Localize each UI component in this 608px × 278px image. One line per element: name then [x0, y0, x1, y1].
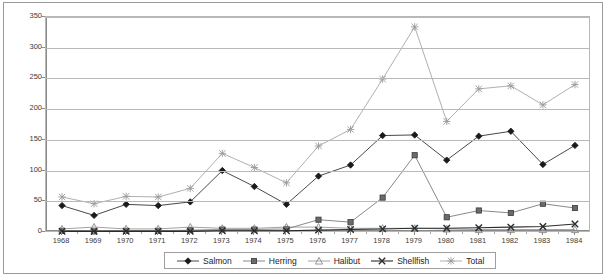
y-tick-mark: [41, 77, 45, 78]
data-point-square: [380, 195, 385, 200]
legend-label: Total: [466, 256, 484, 266]
x-tick-minor: [301, 232, 302, 234]
data-point-asterisk: [507, 82, 514, 89]
x-tick-mark: [253, 232, 254, 235]
x-tick-minor: [237, 232, 238, 234]
data-point-square: [444, 215, 449, 220]
y-tick-mark: [41, 47, 45, 48]
x-tick-minor: [430, 232, 431, 234]
gridline: [46, 78, 589, 79]
y-tick-mark: [41, 16, 45, 17]
chart-screenshot: 050100150200250300350 196819691970197119…: [0, 0, 608, 278]
x-tick-minor: [269, 232, 270, 234]
x-tick-minor: [398, 232, 399, 234]
data-point-asterisk: [219, 150, 226, 157]
data-point-diamond: [185, 257, 191, 263]
y-tick-mark: [41, 108, 45, 109]
y-tick-mark: [41, 231, 45, 232]
plot-area: [45, 16, 590, 232]
chart-container: 050100150200250300350 196819691970197119…: [9, 7, 599, 269]
x-tick-minor: [526, 232, 527, 234]
x-tick-minor: [141, 232, 142, 234]
x-tick-minor: [205, 232, 206, 234]
x-tick-mark: [574, 232, 575, 235]
legend-label: Salmon: [203, 256, 232, 266]
data-point-square: [476, 208, 481, 213]
x-tick-label: 1984: [554, 237, 594, 245]
x-icon: [370, 256, 394, 266]
data-point-square: [251, 258, 256, 263]
gridline: [46, 17, 589, 18]
x-tick-mark: [414, 232, 415, 235]
chart-legend: SalmonHerringHalibutShellfishTotal: [164, 252, 496, 269]
x-tick-mark: [510, 232, 511, 235]
legend-item-salmon[interactable]: Salmon: [176, 256, 232, 266]
data-point-asterisk: [315, 142, 322, 149]
data-point-diamond: [91, 212, 97, 218]
x-tick-minor: [77, 232, 78, 234]
x-tick-minor: [173, 232, 174, 234]
x-tick-mark: [446, 232, 447, 235]
y-tick-label: 0: [2, 227, 42, 235]
data-point-diamond: [59, 202, 65, 208]
series-herring: [59, 153, 577, 234]
data-point-diamond: [251, 183, 257, 189]
y-tick-label: 300: [2, 43, 42, 51]
data-point-asterisk: [155, 193, 162, 200]
x-tick-mark: [221, 232, 222, 235]
x-tick-minor: [558, 232, 559, 234]
diamond-icon: [176, 256, 200, 266]
legend-item-shellfish[interactable]: Shellfish: [370, 256, 429, 266]
data-point-asterisk: [539, 101, 546, 108]
data-point-square: [508, 210, 513, 215]
asterisk-icon: [439, 256, 463, 266]
y-tick-label: 150: [2, 135, 42, 143]
data-point-diamond: [476, 133, 482, 139]
data-point-asterisk: [448, 257, 455, 264]
gridline: [46, 109, 589, 110]
data-point-asterisk: [475, 85, 482, 92]
legend-label: Halibut: [334, 256, 360, 266]
data-point-diamond: [155, 202, 161, 208]
legend-label: Shellfish: [397, 256, 429, 266]
x-tick-minor: [462, 232, 463, 234]
x-tick-mark: [93, 232, 94, 235]
gridline: [46, 48, 589, 49]
y-tick-mark: [41, 170, 45, 171]
y-tick-label: 50: [2, 196, 42, 204]
data-point-square: [412, 153, 417, 158]
triangle-icon: [307, 256, 331, 266]
legend-item-halibut[interactable]: Halibut: [307, 256, 360, 266]
x-tick-mark: [318, 232, 319, 235]
x-tick-mark: [382, 232, 383, 235]
square-icon: [242, 256, 266, 266]
gridline: [46, 201, 589, 202]
x-tick-mark: [157, 232, 158, 235]
gridline: [46, 171, 589, 172]
x-tick-mark: [189, 232, 190, 235]
data-point-asterisk: [122, 193, 129, 200]
x-tick-minor: [494, 232, 495, 234]
data-point-diamond: [572, 142, 578, 148]
y-tick-mark: [41, 139, 45, 140]
y-tick-label: 350: [2, 12, 42, 20]
y-tick-label: 100: [2, 166, 42, 174]
data-point-square: [316, 217, 321, 222]
data-point-asterisk: [283, 179, 290, 186]
y-tick-label: 250: [2, 73, 42, 81]
data-point-asterisk: [411, 23, 418, 30]
data-point-asterisk: [58, 193, 65, 200]
series-salmon: [59, 128, 578, 219]
gridline: [46, 140, 589, 141]
legend-item-total[interactable]: Total: [439, 256, 484, 266]
y-tick-mark: [41, 200, 45, 201]
data-point-asterisk: [443, 118, 450, 125]
data-point-asterisk: [187, 185, 194, 192]
x-tick-mark: [125, 232, 126, 235]
data-point-square: [572, 205, 577, 210]
x-tick-minor: [366, 232, 367, 234]
y-tick-label: 200: [2, 104, 42, 112]
data-point-asterisk: [571, 81, 578, 88]
legend-item-herring[interactable]: Herring: [242, 256, 297, 266]
x-tick-mark: [350, 232, 351, 235]
